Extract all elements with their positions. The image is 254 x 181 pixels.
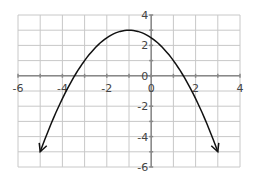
svg-text:0: 0 <box>148 82 155 95</box>
grid-lines <box>18 15 240 167</box>
svg-text:-2: -2 <box>137 100 148 113</box>
svg-text:4: 4 <box>141 9 148 22</box>
svg-text:2: 2 <box>141 39 148 52</box>
svg-text:-6: -6 <box>137 161 148 174</box>
svg-text:-4: -4 <box>57 82 68 95</box>
graph: -6-4-2024420-2-4-6 <box>0 0 254 181</box>
svg-text:4: 4 <box>237 82 244 95</box>
svg-text:0: 0 <box>141 70 148 83</box>
svg-text:-6: -6 <box>13 82 24 95</box>
svg-text:-2: -2 <box>101 82 112 95</box>
svg-text:-4: -4 <box>137 131 148 144</box>
